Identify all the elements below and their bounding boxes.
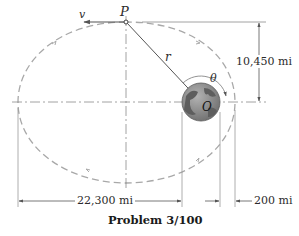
theta-label: θ — [210, 72, 217, 85]
radius-label: r — [165, 50, 171, 64]
point-p-marker — [124, 20, 128, 24]
velocity-label: v — [79, 8, 85, 21]
problem-caption: Problem 3/100 — [108, 213, 202, 227]
vertical-dimension-label: 10,450 mi — [234, 55, 294, 68]
earth-icon — [182, 83, 220, 121]
center-lines — [12, 16, 266, 188]
orbit-diagram: P v r θ O 10,450 mi 22,300 mi 200 mi Pro… — [0, 0, 299, 236]
extension-lines — [18, 108, 235, 207]
horizontal-dimension-label: 22,300 mi — [75, 194, 135, 207]
point-p-label: P — [120, 4, 129, 19]
center-o-label: O — [202, 100, 212, 114]
altitude-dimension-label: 200 mi — [252, 194, 294, 207]
